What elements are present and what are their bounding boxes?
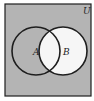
set-a-label: A [32,47,40,57]
venn-diagram: A B U [0,0,94,101]
universe-label: U [83,6,91,16]
set-b-label: B [62,47,70,57]
